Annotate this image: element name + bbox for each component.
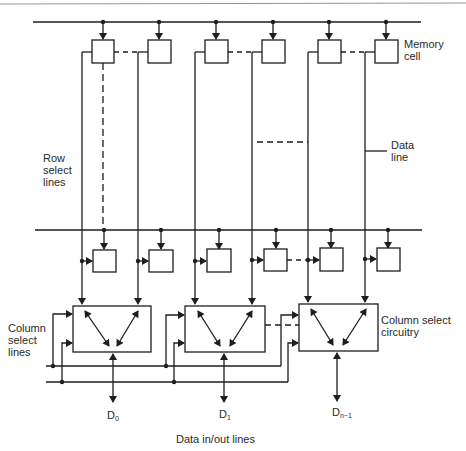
memory-cell (207, 249, 231, 272)
memory-cell (148, 40, 171, 63)
memory-cell (205, 40, 228, 63)
output-label-dn-1: Dn−1 (332, 406, 352, 419)
column-select-lines-label: Column select lines (8, 322, 46, 358)
page-header-rule (0, 3, 466, 4)
memory-cell-label: Memory cell (404, 38, 444, 62)
memory-cell (264, 249, 287, 271)
memory-cell (149, 250, 173, 272)
output-label-d0: D0 (107, 409, 119, 422)
memory-cell (262, 40, 285, 63)
column-select-block-2 (185, 306, 265, 352)
output-label-d1: D1 (219, 408, 231, 421)
column-select-circuitry-label: Column select circuitry (381, 314, 451, 338)
data-in-out-lines-label: Data in/out lines (176, 433, 255, 445)
memory-cell (375, 40, 398, 63)
data-line-label: Data line (391, 139, 414, 163)
column-select-block-3 (299, 304, 378, 351)
memory-cell (377, 248, 400, 271)
memory-array-diagram (0, 0, 466, 451)
memory-cell (92, 40, 114, 63)
memory-cell (93, 250, 116, 272)
memory-cell (318, 40, 341, 63)
memory-cell (320, 248, 343, 271)
column-select-block-1 (73, 306, 151, 352)
row-select-lines-label: Row select lines (43, 152, 72, 188)
